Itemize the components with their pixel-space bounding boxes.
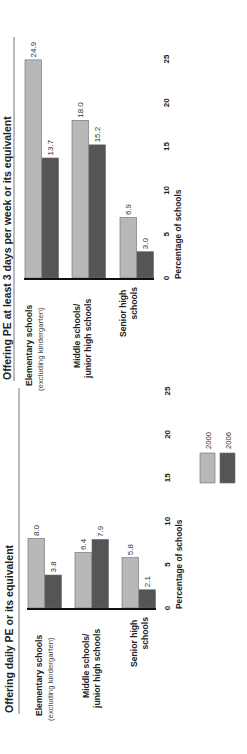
- data-label: 6.4: [79, 538, 88, 550]
- legend-swatch-2006: [220, 453, 235, 483]
- panel-daily-pe: Offering daily PE or its equivalent8.06.…: [3, 386, 235, 721]
- bar-2006-2: [137, 252, 154, 278]
- category-label: schools: [140, 617, 150, 650]
- bar-2006-0: [45, 575, 62, 608]
- bar-2006-0: [42, 158, 59, 278]
- bar-2000-2: [122, 558, 139, 608]
- category-label: Elementary schools: [24, 305, 34, 386]
- data-label: 3.8: [49, 561, 58, 573]
- legend-label: 2000: [204, 432, 213, 449]
- chart-title: Offering PE at least 3 days per week or …: [1, 116, 13, 380]
- category-sublabel: (excluding kindergarten): [36, 307, 45, 391]
- tick-label: 20: [162, 98, 171, 107]
- category-label: Middle schools/: [72, 303, 82, 368]
- tick-label: 10: [162, 185, 171, 194]
- bar-2000-0: [28, 539, 45, 608]
- category-sublabel: (excluding kindergarten): [46, 637, 55, 721]
- tick-label: 5: [163, 562, 172, 567]
- chart-title: Offering daily PE or its equivalent: [3, 544, 15, 713]
- tick-label: 0: [163, 605, 172, 610]
- tick-label: 20: [163, 429, 172, 438]
- category-label: Senior high: [118, 290, 128, 337]
- panel-three-days-per-week: Offering PE at least 3 days per week or …: [1, 37, 183, 391]
- legend-swatch-2000: [200, 453, 215, 483]
- data-label: 24.9: [29, 41, 38, 57]
- bar-2006-1: [92, 539, 109, 608]
- bar-2000-2: [120, 218, 137, 278]
- tick-label: 5: [162, 231, 171, 236]
- bar-2006-2: [139, 590, 156, 608]
- category-label: Elementary schools: [34, 635, 44, 716]
- category-label: junior high schools: [92, 629, 102, 709]
- category-label: Middle schools/: [81, 633, 91, 698]
- data-label: 15.2: [93, 126, 102, 142]
- tick-label: 10: [163, 516, 172, 525]
- data-label: 8.0: [32, 524, 41, 536]
- data-label: 6.9: [124, 203, 133, 215]
- category-label: Senior high: [129, 620, 139, 667]
- data-label: 5.8: [126, 543, 135, 555]
- chart-figure: Offering PE at least 3 days per week or …: [0, 0, 247, 754]
- legend-label: 2006: [224, 432, 233, 449]
- axis-title: Percentage of schools: [174, 519, 184, 609]
- bar-2000-1: [75, 552, 92, 608]
- tick-label: 0: [162, 275, 171, 280]
- axis-title: Percentage of schools: [173, 189, 183, 279]
- tick-label: 15: [163, 473, 172, 482]
- bar-2006-1: [89, 145, 106, 278]
- data-label: 7.9: [96, 525, 105, 537]
- category-label: junior high schools: [83, 299, 93, 379]
- tick-label: 25: [163, 386, 172, 395]
- data-label: 3.0: [141, 238, 150, 250]
- tick-label: 25: [162, 54, 171, 63]
- bar-2000-0: [25, 60, 42, 278]
- data-label: 18.0: [76, 102, 85, 118]
- category-label: schools: [129, 287, 139, 320]
- data-label: 2.1: [143, 576, 152, 588]
- bar-2000-1: [72, 120, 89, 278]
- data-label: 13.7: [46, 139, 55, 155]
- tick-label: 15: [162, 142, 171, 151]
